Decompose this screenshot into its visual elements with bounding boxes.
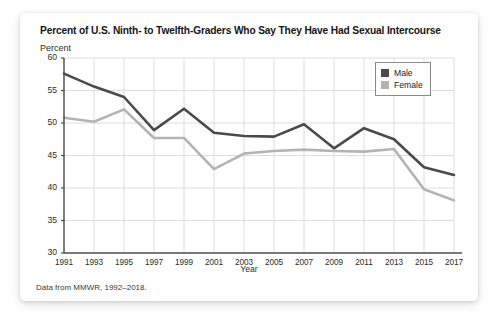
chart-source-note: Data from MMWR, 1992–2018. <box>36 283 147 292</box>
legend-swatch-male <box>381 69 389 77</box>
legend-swatch-female <box>381 81 389 89</box>
y-tick-label: 40 <box>35 182 57 192</box>
y-tick-label: 50 <box>35 117 57 127</box>
legend-label-female: Female <box>394 79 423 91</box>
legend-item-male: Male <box>381 67 423 79</box>
y-tick-label: 35 <box>35 215 57 225</box>
screenshot-root: Percent of U.S. Ninth- to Twelfth-Grader… <box>0 0 499 316</box>
plot-area: 3035404550556019911993199519971999200120… <box>20 13 478 301</box>
x-axis-title: Year <box>20 264 478 274</box>
y-tick-label: 60 <box>35 52 57 62</box>
legend-item-female: Female <box>381 79 423 91</box>
chart-card: Percent of U.S. Ninth- to Twelfth-Grader… <box>20 13 478 301</box>
chart-legend: Male Female <box>375 62 431 96</box>
legend-label-male: Male <box>394 67 413 79</box>
y-tick-label: 55 <box>35 85 57 95</box>
y-tick-label: 45 <box>35 150 57 160</box>
y-tick-label: 30 <box>35 247 57 257</box>
